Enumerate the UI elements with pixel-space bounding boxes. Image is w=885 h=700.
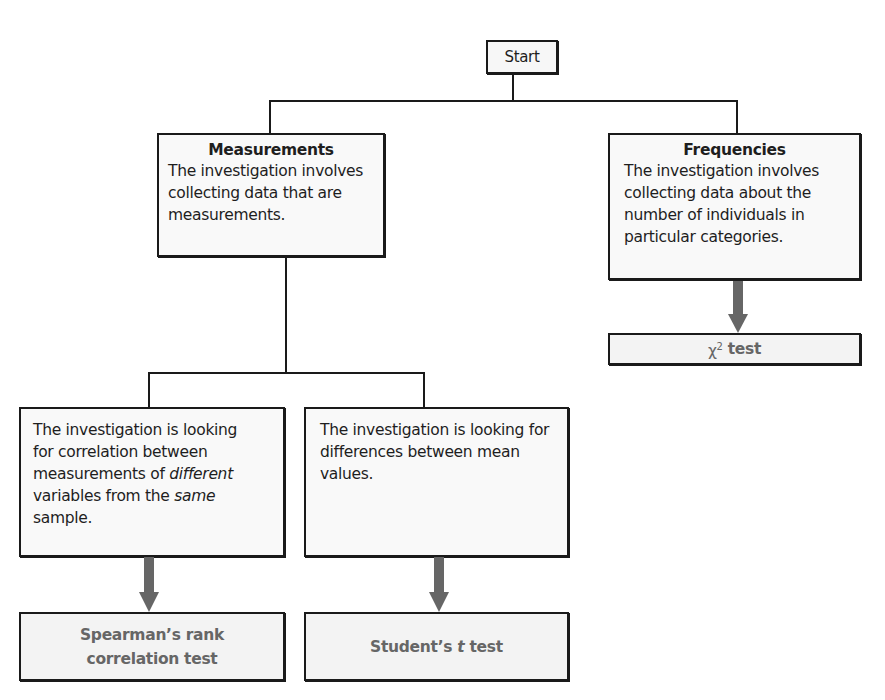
connector-mid-horizontal xyxy=(148,372,425,374)
arrow-differences-to-student-icon xyxy=(429,557,449,613)
frequencies-node: Frequencies The investigation involves c… xyxy=(608,133,861,280)
connector-to-frequencies xyxy=(736,100,738,134)
chi-test-label: test xyxy=(723,338,761,360)
connector-top-horizontal xyxy=(269,100,738,102)
arrow-frequencies-to-chi-icon xyxy=(728,281,748,334)
connector-start-down xyxy=(512,74,514,101)
measurements-title: Measurements xyxy=(168,140,374,160)
spearman-label: Spearman’s rank correlation test xyxy=(67,623,237,671)
student-t-test-node: Student’s t test xyxy=(304,612,569,681)
frequencies-title: Frequencies xyxy=(624,140,845,160)
correlation-description: The investigation is looking for correla… xyxy=(33,419,271,529)
connector-to-differences xyxy=(423,372,425,408)
start-node: Start xyxy=(486,40,558,74)
chi-symbol: χ2 xyxy=(708,336,723,362)
frequencies-description: The investigation involves collecting da… xyxy=(624,160,845,248)
measurements-description: The investigation involves collecting da… xyxy=(168,160,374,226)
connector-to-measurements xyxy=(269,100,271,134)
differences-description: The investigation is looking for differe… xyxy=(320,419,553,485)
spearman-test-node: Spearman’s rank correlation test xyxy=(19,612,285,681)
start-label: Start xyxy=(504,46,539,68)
connector-measurements-down xyxy=(285,257,287,373)
chi-square-test-node: χ2 test xyxy=(608,333,861,365)
student-label: Student’s t test xyxy=(370,636,503,658)
arrow-correlation-to-spearman-icon xyxy=(139,557,159,613)
correlation-node: The investigation is looking for correla… xyxy=(19,407,285,557)
connector-to-correlation xyxy=(148,372,150,408)
differences-node: The investigation is looking for differe… xyxy=(304,407,569,557)
measurements-node: Measurements The investigation involves … xyxy=(157,133,385,257)
